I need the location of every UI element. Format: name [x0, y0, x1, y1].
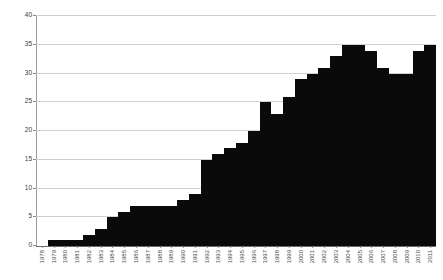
bar [107, 217, 119, 246]
x-axis-label-cell: 1994 [224, 248, 236, 280]
bar [224, 148, 236, 246]
x-axis-tick-label: 2011 [427, 250, 433, 263]
x-axis-label-cell: 2003 [330, 248, 342, 280]
bar [283, 97, 295, 247]
bar [130, 206, 142, 246]
bar [154, 206, 166, 246]
x-axis-labels: 1978197919801981198219831984198519861987… [36, 248, 436, 280]
bar [95, 229, 107, 246]
bar [389, 74, 401, 247]
y-axis-tick-label: 0 [28, 242, 32, 249]
x-axis-label-cell: 2007 [377, 248, 389, 280]
x-axis-label-cell: 1984 [107, 248, 119, 280]
x-axis-tick-label: 2001 [309, 250, 315, 263]
x-axis-tick-label: 1979 [51, 250, 57, 263]
x-axis-tick-label: 1997 [262, 250, 268, 263]
x-tick-mark [54, 246, 55, 248]
bar [189, 194, 201, 246]
bar [413, 51, 425, 247]
x-tick-mark [312, 246, 313, 248]
x-axis-tick-label: 1985 [121, 250, 127, 263]
bar [165, 206, 177, 246]
x-axis-tick-label: 1990 [180, 250, 186, 263]
x-tick-mark [407, 246, 408, 248]
x-axis-tick-label: 1996 [251, 250, 257, 263]
x-axis-tick-label: 1981 [74, 250, 80, 263]
x-axis-tick-label: 2003 [333, 250, 339, 263]
x-axis-tick-label: 2010 [415, 250, 421, 263]
x-tick-mark [418, 246, 419, 248]
x-axis-label-cell: 1993 [212, 248, 224, 280]
bar [177, 200, 189, 246]
bar-series [36, 16, 436, 246]
x-tick-mark [65, 246, 66, 248]
x-axis-tick-label: 2006 [368, 250, 374, 263]
bar [142, 206, 154, 246]
x-axis-tick-label: 1980 [62, 250, 68, 263]
bar [212, 154, 224, 246]
x-axis-tick-label: 1989 [168, 250, 174, 263]
bar [318, 68, 330, 246]
bar [236, 143, 248, 247]
bar [83, 235, 95, 247]
x-axis-label-cell: 1988 [154, 248, 166, 280]
bar [424, 45, 436, 246]
x-tick-mark [183, 246, 184, 248]
x-tick-mark [101, 246, 102, 248]
x-tick-mark [336, 246, 337, 248]
bar [330, 56, 342, 246]
bar [365, 51, 377, 247]
x-axis-label-cell: 1981 [71, 248, 83, 280]
x-tick-mark [395, 246, 396, 248]
x-axis-label-cell: 2002 [318, 248, 330, 280]
bar [248, 131, 260, 246]
x-axis-label-cell: 1995 [236, 248, 248, 280]
x-axis-label-cell: 2006 [365, 248, 377, 280]
x-axis-line [36, 246, 436, 247]
x-tick-mark [218, 246, 219, 248]
x-axis-tick-label: 1992 [204, 250, 210, 263]
y-axis-tick-label: 20 [25, 127, 32, 134]
x-tick-mark [324, 246, 325, 248]
x-axis-label-cell: 2008 [389, 248, 401, 280]
x-axis-tick-label: 1999 [286, 250, 292, 263]
x-tick-mark [230, 246, 231, 248]
x-tick-mark [42, 246, 43, 248]
x-tick-mark [171, 246, 172, 248]
x-axis-label-cell: 1990 [177, 248, 189, 280]
y-axis-tick-label: 15 [25, 156, 32, 163]
x-tick-mark [430, 246, 431, 248]
y-axis-tick-label: 25 [25, 98, 32, 105]
bar [271, 114, 283, 246]
x-axis-label-cell: 1991 [189, 248, 201, 280]
x-axis-label-cell: 2011 [424, 248, 436, 280]
x-axis-label-cell: 2001 [307, 248, 319, 280]
x-tick-mark [89, 246, 90, 248]
x-axis-tick-label: 1993 [215, 250, 221, 263]
y-axis-tick-label: 10 [25, 184, 32, 191]
x-axis-tick-label: 1995 [239, 250, 245, 263]
bar [260, 102, 272, 246]
x-tick-mark [301, 246, 302, 248]
bar [307, 74, 319, 247]
y-axis-tick-label: 35 [25, 41, 32, 48]
x-tick-mark [242, 246, 243, 248]
x-axis-tick-label: 2004 [345, 250, 351, 263]
x-tick-mark [254, 246, 255, 248]
x-axis-tick-label: 2007 [380, 250, 386, 263]
x-tick-mark [207, 246, 208, 248]
x-axis-tick-label: 1991 [192, 250, 198, 263]
x-axis-tick-label: 2005 [357, 250, 363, 263]
x-axis-label-cell: 1999 [283, 248, 295, 280]
x-tick-mark [289, 246, 290, 248]
x-tick-mark [112, 246, 113, 248]
x-axis-tick-label: 1988 [157, 250, 163, 263]
bar [295, 79, 307, 246]
x-tick-mark [360, 246, 361, 248]
bar [342, 45, 354, 246]
plot-area: 0510152025303540 [36, 16, 436, 246]
x-axis-tick-label: 1984 [109, 250, 115, 263]
x-axis-label-cell: 1987 [142, 248, 154, 280]
x-axis-tick-label: 1983 [98, 250, 104, 263]
x-axis-label-cell: 1980 [60, 248, 72, 280]
